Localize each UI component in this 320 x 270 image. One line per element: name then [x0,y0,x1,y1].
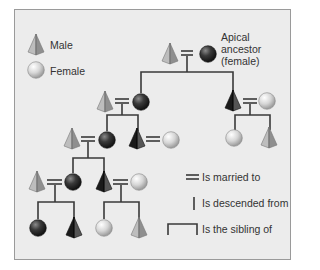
legend-descended-label: Is descended from [202,197,288,209]
gen4-female-lineage-icon [65,174,82,191]
gen2-female-lineage-icon [133,94,150,111]
legend-male-icon [28,34,44,55]
legend-married-label: Is married to [202,171,260,183]
legend-female-icon [28,62,45,79]
legend-male-label: Male [50,39,73,51]
gen5-male-icon [131,217,147,238]
gen5-female-lineage-icon [30,220,47,237]
gen2-female-icon [259,93,276,110]
gen5-female-icon [96,220,113,237]
apical-ancestor-icon [200,46,217,63]
apical-ancestor-label: Apical ancestor (female) [221,31,291,67]
gen3-female-lineage-icon [99,132,116,149]
gen3-right-female-icon [226,130,243,147]
apical-line1: Apical [221,31,291,43]
gen3-female-icon [163,132,180,149]
gen3-male-icon [64,128,80,149]
gen3-male-lineage-icon [129,128,145,149]
legend-female-label: Female [50,65,85,77]
gen4-female-icon [131,174,148,191]
gen4-male-icon [29,171,45,192]
gen1-male-icon [162,43,178,64]
gen2-male-icon [97,91,113,112]
gen3-right-male-icon [261,127,277,148]
apical-line3: (female) [221,55,291,67]
gen4-male-lineage-icon [96,171,112,192]
gen5-male-lineage-icon [66,217,82,238]
gen2-male-lineage-icon [225,90,241,111]
legend-sibling-label: Is the sibling of [202,223,272,235]
apical-line2: ancestor [221,43,291,55]
